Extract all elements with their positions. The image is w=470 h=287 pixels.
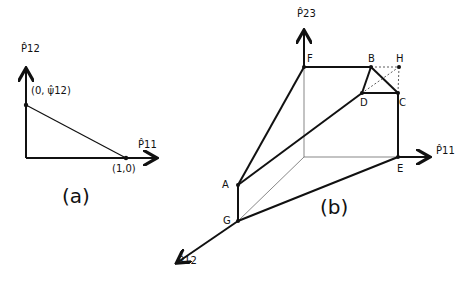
figure: P̂12 (0, ψ̂12) P̂11 (1,0) (a) P̂23 P̂11 …	[0, 0, 470, 287]
vertex-D: D	[360, 98, 368, 108]
caption-a: (a)	[62, 186, 90, 206]
axis-label-p12-b: P̂12	[178, 256, 197, 266]
axis-label-p11: P̂11	[138, 140, 157, 150]
caption-b: (b)	[320, 197, 348, 217]
axis-label-p11-b: P̂11	[436, 146, 455, 156]
panel-b-graph	[178, 32, 428, 262]
point-label-right: (1,0)	[112, 164, 136, 174]
vertex-E: E	[397, 164, 403, 174]
vertex-G: G	[223, 216, 231, 226]
panel-a-graph	[24, 70, 155, 160]
diagram-lines	[0, 0, 470, 287]
axis-label-p12: P̂12	[21, 44, 40, 54]
vertex-F: F	[307, 54, 313, 64]
vertex-B: B	[368, 54, 375, 64]
vertex-C: C	[399, 98, 406, 108]
point-label-top: (0, ψ̂12)	[31, 86, 71, 96]
vertex-H: H	[396, 54, 404, 64]
vertex-A: A	[222, 180, 229, 190]
axis-label-p23: P̂23	[297, 9, 316, 19]
